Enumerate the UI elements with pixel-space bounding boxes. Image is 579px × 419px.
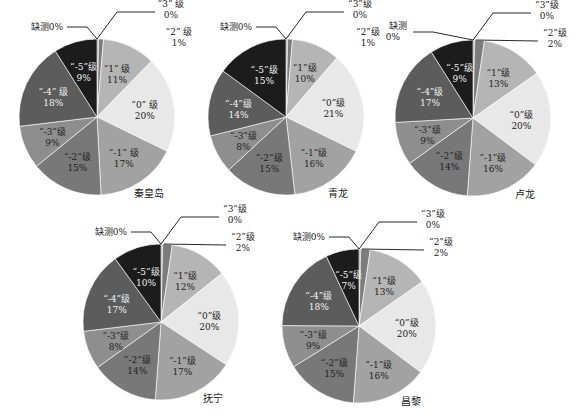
slice-percent: 17% (172, 367, 192, 377)
slice-percent: 16% (304, 159, 324, 169)
leader-line (413, 32, 473, 40)
leader-line (329, 237, 359, 249)
slice-percent: 16% (483, 164, 503, 174)
slice-label: “2” 级 (166, 26, 193, 37)
slice-percent: 7% (341, 281, 356, 291)
slice-label: 缺测0% (220, 21, 253, 32)
slice-label: “3”级 (223, 203, 247, 214)
slice-label: “2”级 (429, 236, 453, 247)
slice-percent: 9% (76, 73, 91, 83)
slice-label: “1”级 (372, 275, 396, 286)
slice-percent: 0% (426, 220, 441, 230)
slice-label: “-3”级 (102, 330, 129, 341)
slice-label: “-5”级 (70, 61, 97, 72)
slice-label: “-1”级 (300, 147, 327, 158)
slice-percent: 10% (136, 278, 156, 288)
slice-percent: 0% (540, 11, 555, 21)
pie-chart-3: “1”级12%“0”级20%“-1”级17%“-2”级14%“-3”级8%“-4… (83, 203, 255, 404)
slice-percent: 15% (324, 369, 344, 379)
slice-label: “1”级 (173, 270, 197, 281)
slice-percent: 9% (452, 74, 467, 84)
slice-percent: 20% (135, 111, 155, 121)
slice-label: “-4” 级 (38, 86, 68, 97)
slice-percent: 14% (228, 110, 248, 120)
slice-label: “1”级 (486, 67, 510, 78)
slice-label: “0” 级 (131, 99, 158, 110)
slice-label: “3”级 (535, 0, 559, 10)
pie-chart-4: “1”级13%“0”级20%“-1”级16%“-2”级15%“-3”级9%“-4… (282, 208, 453, 407)
slice-percent: 17% (114, 159, 134, 169)
slice-label: “-1”级 (480, 152, 507, 163)
slice-percent: 1% (361, 38, 376, 48)
leader-line (131, 232, 161, 244)
slice-percent: 20% (511, 121, 531, 131)
slice-label: “-4”级 (103, 293, 130, 304)
pie-title: 昌黎 (401, 395, 421, 407)
pie-charts-canvas: “1” 级11%“0” 级20%“-1” 级17%“-2”级15%“-3”级9%… (0, 0, 579, 419)
slice-label: “-3”级 (230, 130, 257, 141)
slice-percent: 0% (353, 10, 368, 20)
slice-percent: 2% (434, 248, 449, 258)
slice-label: “-5”级 (446, 62, 473, 73)
slice-label: “-3”级 (414, 124, 441, 135)
slice-percent: 9% (420, 136, 435, 146)
leader-line (286, 12, 344, 39)
slice-label: “-2”级 (124, 354, 151, 365)
pie-chart-figure: “1” 级11%“0” 级20%“-1” 级17%“-2”级15%“-3”级9%… (0, 0, 579, 419)
slice-label: 缺测0% (31, 21, 64, 32)
slice-percent: 11% (107, 75, 127, 85)
slice-percent: 2% (548, 39, 563, 49)
slice-percent: 18% (309, 302, 329, 312)
pie-title: 抚宁 (203, 392, 223, 404)
slice-percent: 13% (488, 79, 508, 89)
slice-label: “-2”级 (436, 150, 463, 161)
slice-label: “-4”级 (417, 86, 444, 97)
slice-label: “2”级 (231, 231, 255, 242)
slice-percent: 20% (397, 329, 417, 339)
slice-percent: 0% (386, 32, 401, 42)
slice-label: “1”级 (293, 62, 317, 73)
slice-percent: 17% (420, 98, 440, 108)
slice-label: “-4”级 (225, 98, 252, 109)
slice-label: “-1”级 (365, 359, 392, 370)
slice-percent: 15% (259, 164, 279, 174)
slice-percent: 20% (199, 322, 219, 332)
pie-chart-0: “1” 级11%“0” 级20%“-1” 级17%“-2”级15%“-3”级9%… (19, 0, 192, 199)
slice-label: “-1” 级 (109, 147, 139, 158)
slice-percent: 8% (109, 342, 124, 352)
slice-label: “2”级 (356, 26, 380, 37)
slice-percent: 15% (254, 76, 274, 86)
slice-percent: 14% (439, 162, 459, 172)
slice-percent: 10% (295, 74, 315, 84)
slice-percent: 0% (228, 215, 243, 225)
slice-percent: 21% (323, 109, 343, 119)
leader-line (161, 217, 219, 244)
pie-chart-2: “1”级13%“0”级20%“-1”级16%“-2”级14%“-3”级9%“-4… (386, 0, 567, 200)
leader-line (97, 12, 155, 39)
slice-percent: 2% (236, 243, 251, 253)
slice-label: “0”级 (395, 317, 419, 328)
slice-label: “-3”级 (300, 329, 327, 340)
slice-label: “-2”级 (321, 357, 348, 368)
slice-label: “0”级 (321, 97, 345, 108)
slice-label: “-5”级 (133, 266, 160, 277)
slice-label: 缺测 (389, 20, 407, 31)
slice-label: “-5”级 (251, 64, 278, 75)
pie-title: 秦皇岛 (134, 187, 164, 199)
slice-percent: 15% (67, 163, 87, 173)
slice-percent: 16% (369, 371, 389, 381)
slice-percent: 17% (107, 305, 127, 315)
slice-percent: 0% (164, 10, 179, 20)
slice-label: “0”级 (197, 310, 221, 321)
slice-percent: 9% (306, 341, 321, 351)
slice-label: “-1”级 (169, 355, 196, 366)
slice-label: “1” 级 (104, 63, 131, 74)
slice-percent: 14% (127, 366, 147, 376)
slice-label: “-5”级 (335, 269, 362, 280)
slice-label: “2”级 (543, 27, 567, 38)
slice-percent: 9% (45, 138, 60, 148)
slice-percent: 12% (175, 282, 195, 292)
slice-label: “3” 级 (158, 0, 185, 9)
slice-label: 缺测0% (293, 231, 326, 242)
pie-title: 青龙 (328, 187, 348, 199)
